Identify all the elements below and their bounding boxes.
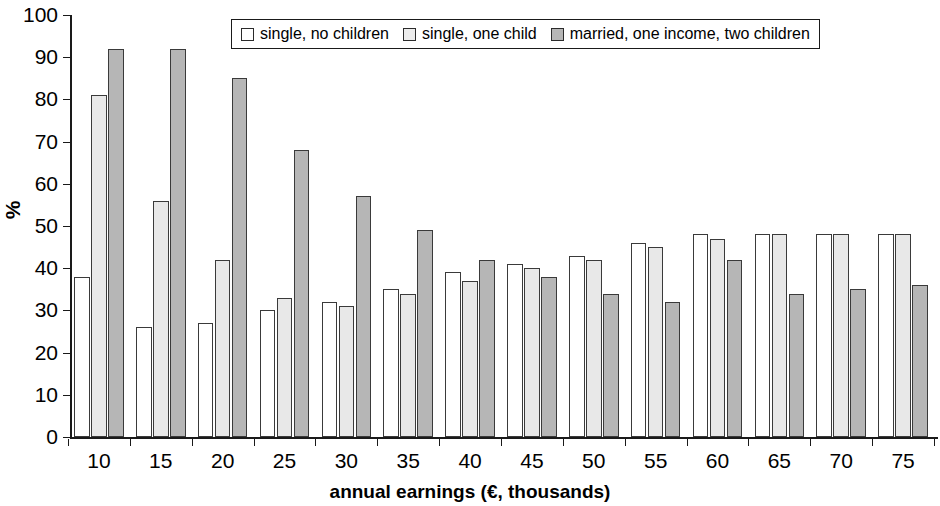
bar-group	[198, 15, 248, 437]
bar	[569, 256, 585, 437]
bar	[294, 150, 310, 437]
y-axis-tick-label: 50	[14, 215, 58, 236]
y-axis-tick-mark	[63, 268, 71, 269]
x-axis-tick-mark	[810, 439, 811, 446]
bar	[816, 234, 832, 437]
y-axis-tick-label: 60	[14, 173, 58, 194]
x-axis-tick-label: 40	[440, 449, 500, 473]
legend-item: single, one child	[403, 26, 537, 42]
chart-legend: single, no childrensingle, one childmarr…	[231, 19, 820, 49]
bar	[895, 234, 911, 437]
x-axis-tick-mark	[439, 439, 440, 446]
x-axis-tick-mark	[563, 439, 564, 446]
bar	[603, 294, 619, 437]
y-axis-tick-mark	[63, 15, 71, 16]
bar	[108, 49, 124, 437]
y-axis-tick-label: 0	[14, 426, 58, 447]
x-axis-tick-mark	[687, 439, 688, 446]
bar	[833, 234, 849, 437]
x-axis-tick-mark	[130, 439, 131, 446]
y-axis-tick-label: 100	[14, 4, 58, 25]
y-axis-tick-mark	[63, 437, 71, 438]
bar-group	[445, 15, 495, 437]
bar	[322, 302, 338, 437]
y-axis-tick-label: 10	[14, 384, 58, 405]
x-axis-tick-mark	[315, 439, 316, 446]
bar	[631, 243, 647, 437]
x-axis-tick-label: 25	[255, 449, 315, 473]
x-axis-tick-mark	[625, 439, 626, 446]
bar-chart: % 0102030405060708090100 101520253035404…	[0, 0, 940, 506]
bar	[524, 268, 540, 437]
bar	[586, 260, 602, 437]
y-axis-tick-mark	[63, 310, 71, 311]
x-axis-tick-label: 60	[688, 449, 748, 473]
bar-group	[260, 15, 310, 437]
bar	[665, 302, 681, 437]
y-axis-tick-mark	[63, 395, 71, 396]
x-axis-tick-mark	[254, 439, 255, 446]
bar	[648, 247, 664, 437]
bar	[541, 277, 557, 437]
y-axis-tick-label: 30	[14, 299, 58, 320]
bar-group	[878, 15, 928, 437]
legend-item: married, one income, two children	[551, 26, 810, 42]
y-axis-tick-mark	[63, 226, 71, 227]
bar	[136, 327, 152, 437]
x-axis-tick-label: 15	[131, 449, 191, 473]
x-axis-tick-label: 75	[873, 449, 933, 473]
y-axis-tick-label: 20	[14, 342, 58, 363]
y-axis-tick-mark	[63, 99, 71, 100]
bar-group	[136, 15, 186, 437]
bar	[912, 285, 928, 437]
y-axis-tick-mark	[63, 142, 71, 143]
x-axis-tick-mark	[501, 439, 502, 446]
bar	[91, 95, 107, 437]
bar-group	[507, 15, 557, 437]
bar	[339, 306, 355, 437]
bar	[878, 234, 894, 437]
y-axis-tick-label: 40	[14, 257, 58, 278]
x-axis-title: annual earnings (€, thousands)	[0, 481, 940, 503]
bar	[789, 294, 805, 437]
x-axis-tick-label: 35	[378, 449, 438, 473]
x-axis-tick-mark	[934, 439, 935, 446]
x-axis-tick-label: 70	[811, 449, 871, 473]
legend-item-label: single, no children	[260, 26, 389, 42]
legend-item-label: single, one child	[422, 26, 537, 42]
y-axis-tick-labels: 0102030405060708090100	[14, 0, 58, 506]
y-axis-tick-label: 90	[14, 46, 58, 67]
bar-group	[322, 15, 372, 437]
bar-group	[383, 15, 433, 437]
bar-group	[631, 15, 681, 437]
bar	[727, 260, 743, 437]
y-axis-tick-mark	[63, 184, 71, 185]
bar	[710, 239, 726, 437]
bar	[260, 310, 276, 437]
x-axis-tick-mark	[872, 439, 873, 446]
bar-group	[74, 15, 124, 437]
x-axis-tick-mark	[377, 439, 378, 446]
bar-group	[816, 15, 866, 437]
x-axis-tick-mark	[192, 439, 193, 446]
x-axis-tick-label: 65	[749, 449, 809, 473]
x-axis-tick-label: 30	[316, 449, 376, 473]
bar	[215, 260, 231, 437]
x-axis-tick-label: 20	[193, 449, 253, 473]
plot-area	[72, 15, 938, 437]
white-swatch-icon	[241, 28, 254, 41]
bar	[153, 201, 169, 437]
bar	[170, 49, 186, 437]
y-axis-tick-mark	[63, 57, 71, 58]
x-axis-tick-label: 10	[69, 449, 129, 473]
x-axis-tick-label: 45	[502, 449, 562, 473]
bar	[772, 234, 788, 437]
x-axis-tick-label: 55	[626, 449, 686, 473]
x-axis-tick-mark	[748, 439, 749, 446]
bar	[356, 196, 372, 437]
bar	[445, 272, 461, 437]
legend-item: single, no children	[241, 26, 389, 42]
bar-group	[569, 15, 619, 437]
bar	[507, 264, 523, 437]
bar	[850, 289, 866, 437]
